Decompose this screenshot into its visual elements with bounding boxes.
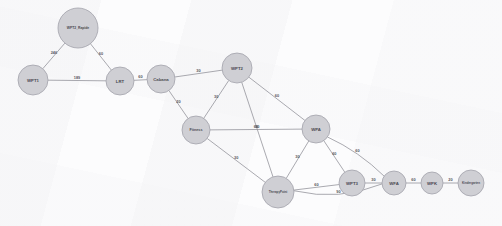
node-label: LRT <box>116 79 125 84</box>
graph-node-fitness[interactable]: Fitness <box>182 116 210 144</box>
graph-edge <box>169 91 188 119</box>
edge-weight-label: 30 <box>371 177 375 182</box>
graph-edge <box>207 138 265 182</box>
node-label: WPK <box>427 181 438 186</box>
edge-weight-label: 60 <box>99 51 103 56</box>
graph-node-lrt[interactable]: LRT <box>106 67 134 95</box>
graph-edge <box>204 81 229 119</box>
graph-edge <box>48 80 106 81</box>
network-graph: 2466018960302030609060303060606090306020… <box>0 0 502 226</box>
graph-edge <box>286 141 309 178</box>
node-label: Fitness <box>190 128 203 132</box>
graph-node-wpt2[interactable]: WPT2 <box>222 53 252 83</box>
edge-weight-label: 20 <box>176 99 180 104</box>
node-label: WPT3 <box>346 181 359 186</box>
edge-weight-label: 30 <box>196 68 200 73</box>
node-label: Kindergarten <box>462 181 480 185</box>
node-label: WPT2 <box>231 66 244 71</box>
edge-weight-label: 60 <box>275 93 279 98</box>
edge-weight-label: 246 <box>51 50 58 55</box>
edge-weight-label: 30 <box>295 154 299 159</box>
node-label: WPT2_Rapide <box>67 26 90 30</box>
graph-edge <box>249 77 305 120</box>
edge-weight-label: 30 <box>214 94 218 99</box>
graph-node-kindergarten[interactable]: Kindergarten <box>458 170 484 196</box>
graph-node-wpa[interactable]: WPA <box>302 115 330 143</box>
node-label: WPA <box>311 127 321 132</box>
edge-weight-label: 60 <box>355 148 359 153</box>
edge-weight-label: 60 <box>314 182 318 187</box>
edge-weight-label: 30 <box>234 155 238 160</box>
graph-node-wpt1[interactable]: WPT1 <box>18 65 48 95</box>
graph-node-wpk[interactable]: WPK <box>421 172 443 194</box>
graph-edge <box>43 43 65 69</box>
graph-edge <box>134 80 147 81</box>
node-label: WPT1 <box>27 78 40 83</box>
edge-weight-label: 60 <box>254 124 258 129</box>
graph-edge <box>210 129 302 130</box>
graph-node-therapy[interactable]: TherapyPoint <box>262 176 294 208</box>
graph-edge <box>324 141 345 173</box>
node-label: TherapyPoint <box>269 190 288 194</box>
graph-edge <box>90 44 111 70</box>
graph-node-wpt2_rapide[interactable]: WPT2_Rapide <box>58 8 98 48</box>
edge-weight-label: 189 <box>74 75 81 80</box>
graph-canvas: 2466018960302030609060303060606090306020… <box>0 0 502 226</box>
graph-node-wfa[interactable]: WFA <box>382 171 406 195</box>
edge-weight-label: 60 <box>138 74 142 79</box>
edge-weight-label: 90 <box>336 189 340 194</box>
edge-weight-label: 60 <box>411 177 415 182</box>
edge-weight-label: 20 <box>448 177 452 182</box>
edge-weight-label: 60 <box>332 151 336 156</box>
node-label: WFA <box>389 181 399 186</box>
graph-node-cabana[interactable]: Cabana <box>147 65 175 93</box>
node-label: Cabana <box>153 77 169 82</box>
graph-node-wpt3[interactable]: WPT3 <box>339 170 365 196</box>
